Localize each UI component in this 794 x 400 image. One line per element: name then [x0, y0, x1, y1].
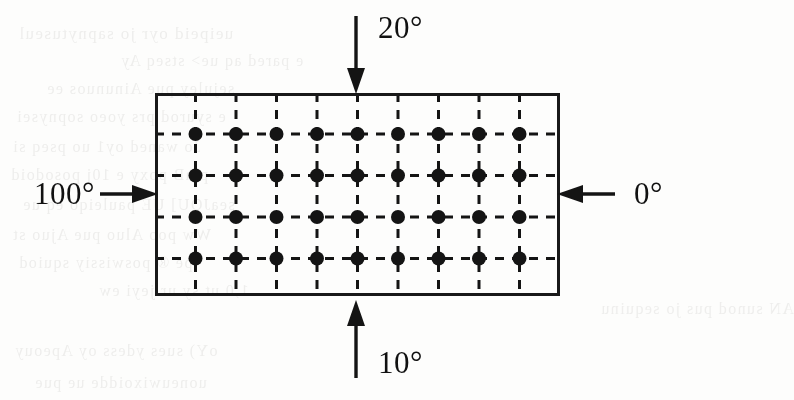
boundary-label-right: 0°	[634, 178, 663, 209]
boundary-label-bottom: 10°	[378, 347, 423, 378]
arrow-right-icon	[100, 182, 158, 206]
domain-rectangle	[155, 93, 560, 296]
arrow-down-icon	[344, 16, 368, 94]
arrow-left-icon	[557, 182, 615, 206]
boundary-label-left: 100°	[34, 178, 95, 209]
arrow-up-icon	[344, 300, 368, 378]
boundary-label-top: 20°	[378, 12, 423, 43]
